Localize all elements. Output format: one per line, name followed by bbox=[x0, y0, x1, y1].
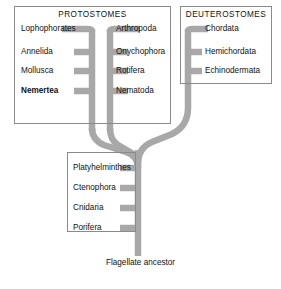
taxon-label-rotifera: Rotifera bbox=[116, 66, 145, 76]
group-title-protostomes: PROTOSTOMES bbox=[14, 10, 171, 19]
taxon-label-annelida: Annelida bbox=[21, 47, 53, 57]
taxon-label-arthropoda: Arthropoda bbox=[116, 24, 157, 34]
taxon-label-onychophora: Onychophora bbox=[116, 47, 165, 57]
taxon-label-echinodermata: Echinodermata bbox=[205, 66, 260, 76]
taxon-label-porifera: Porifera bbox=[73, 223, 102, 233]
taxon-label-lophophorates: Lophophorates bbox=[21, 24, 76, 34]
taxon-label-platyhelminthes: Platyhelminthes bbox=[73, 163, 131, 173]
taxon-label-nematoda: Nematoda bbox=[116, 86, 154, 96]
root-label-flagellate-ancestor: Flagellate ancestor bbox=[0, 258, 281, 267]
phylogenetic-tree-diagram: PROTOSTOMES DEUTEROSTOMES Lophophorates … bbox=[0, 0, 281, 289]
taxon-label-hemichordata: Hemichordata bbox=[205, 47, 256, 57]
group-title-deuterostomes: DEUTEROSTOMES bbox=[180, 10, 272, 19]
taxon-label-nemertea: Nemertea bbox=[21, 86, 58, 96]
taxon-label-mollusca: Mollusca bbox=[21, 66, 53, 76]
taxon-label-ctenophora: Ctenophora bbox=[73, 183, 116, 193]
taxon-label-chordata: Chordata bbox=[205, 24, 239, 34]
taxon-label-cnidaria: Cnidaria bbox=[73, 203, 104, 213]
